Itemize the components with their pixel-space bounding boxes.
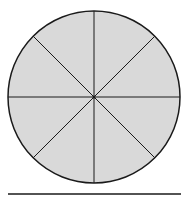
circle-diagram <box>0 0 190 198</box>
segment-dividers <box>8 11 180 183</box>
diagram-canvas <box>0 0 190 198</box>
center-point <box>93 96 96 99</box>
